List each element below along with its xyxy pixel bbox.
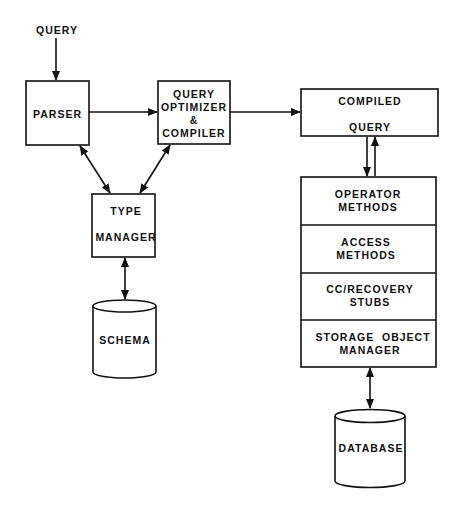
storage-object-manager-line2: MANAGER (339, 344, 400, 356)
cc-recovery-line2: STUBS (350, 296, 391, 308)
access-methods-line1: ACCESS (341, 236, 391, 248)
type-manager-box: TYPE MANAGER (92, 194, 157, 257)
database-label: DATABASE (339, 442, 404, 454)
compiled-query-label-line1: COMPILED (338, 95, 401, 107)
parser-box: PARSER (26, 81, 89, 145)
optimizer-type-manager-arrow (140, 145, 170, 193)
type-manager-label-line2: MANAGER (95, 231, 156, 243)
schema-cylinder: SCHEMA (93, 300, 156, 378)
compiled-query-label-line2: QUERY (349, 121, 391, 133)
parser-label: PARSER (33, 108, 82, 120)
cc-recovery-line1: CC/RECOVERY (326, 283, 414, 295)
architecture-diagram: QUERY PARSER QUERY OPTIMIZER & COMPILER … (0, 0, 458, 509)
operator-methods-line2: METHODS (338, 201, 398, 213)
parser-type-manager-arrow (80, 146, 110, 193)
database-cylinder: DATABASE (335, 410, 405, 488)
optimizer-label-line3: & (190, 114, 199, 126)
query-optimizer-compiler-box: QUERY OPTIMIZER & COMPILER (158, 81, 230, 144)
runtime-stack: OPERATOR METHODS ACCESS METHODS CC/RECOV… (301, 177, 436, 367)
schema-label: SCHEMA (99, 334, 151, 346)
query-input-label: QUERY (36, 24, 78, 36)
optimizer-label-line1: QUERY (173, 88, 215, 100)
operator-methods-line1: OPERATOR (335, 188, 402, 200)
operator-methods-layer: OPERATOR METHODS (335, 188, 402, 213)
access-methods-line2: METHODS (336, 249, 396, 261)
type-manager-label-line1: TYPE (110, 205, 141, 217)
access-methods-layer: ACCESS METHODS (336, 236, 396, 261)
storage-object-manager-line1: STORAGE OBJECT (315, 331, 430, 343)
compiled-query-box: COMPILED QUERY (301, 89, 438, 136)
optimizer-label-line2: OPTIMIZER (161, 101, 227, 113)
optimizer-label-line4: COMPILER (162, 127, 225, 139)
